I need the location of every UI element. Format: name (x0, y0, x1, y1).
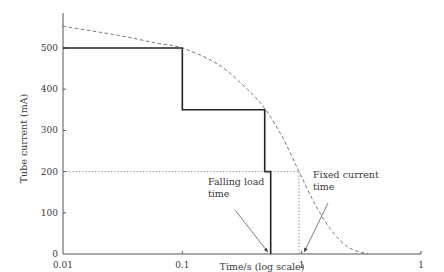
arrowhead-icon (264, 248, 268, 252)
y-ticks: 0100200300400500 (41, 43, 66, 259)
y-tick-label: 100 (41, 208, 58, 218)
axes (63, 13, 421, 254)
annotation-text: Fixed current (313, 169, 379, 180)
x-tick-label: 0.1 (175, 260, 189, 270)
annotation: Fixed currenttime (304, 169, 379, 252)
y-tick-label: 0 (52, 249, 58, 259)
annotation-text: time (208, 188, 230, 199)
chart: 0100200300400500 0.010.111 Falling loadt… (0, 0, 444, 272)
annotation-text: Falling load (208, 176, 264, 187)
y-axis-title: Tube current (mA) (18, 94, 29, 184)
x-tick-label: 1 (418, 260, 424, 270)
x-tick-label: 0.01 (53, 260, 73, 270)
annotation: Falling loadtime (208, 176, 268, 252)
annotation-arrow (304, 203, 328, 252)
series-line (63, 26, 368, 254)
y-tick-label: 400 (41, 84, 58, 94)
annotation-text: time (313, 181, 335, 192)
x-axis-title: Time/s (log scale) (220, 261, 305, 272)
y-tick-label: 500 (41, 43, 58, 53)
series-layer (63, 26, 368, 254)
y-tick-label: 300 (41, 125, 58, 135)
annotation-arrow (235, 210, 268, 252)
annotations: Falling loadtimeFixed currenttime (208, 169, 379, 252)
series-line (63, 48, 271, 254)
y-tick-label: 200 (41, 167, 58, 177)
